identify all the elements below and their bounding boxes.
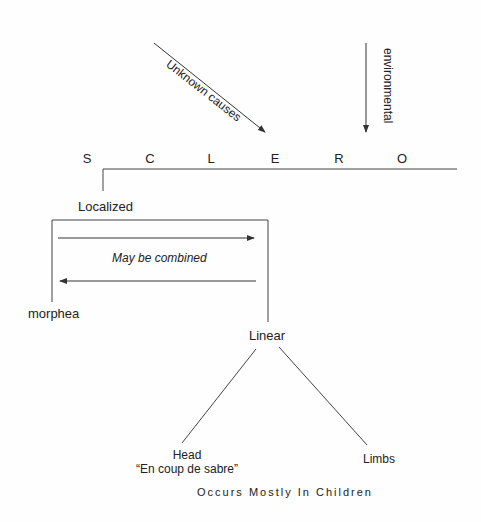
letter-o: O bbox=[397, 151, 407, 166]
footer-note: Occurs Mostly In Children bbox=[197, 486, 373, 498]
diagram-lines bbox=[0, 0, 481, 522]
localized-label: Localized bbox=[78, 199, 133, 214]
morphea-label: morphea bbox=[28, 306, 79, 321]
environmental-label: environmental bbox=[381, 48, 395, 123]
letter-l: L bbox=[207, 151, 214, 166]
letter-e: E bbox=[271, 151, 280, 166]
letter-r: R bbox=[334, 151, 343, 166]
head-line2: “En coup de sabre” bbox=[136, 462, 238, 476]
linear-label: Linear bbox=[249, 328, 285, 343]
branch-head bbox=[182, 349, 256, 443]
letter-c: C bbox=[145, 151, 154, 166]
combined-note: May be combined bbox=[112, 251, 207, 265]
sclero-bracket bbox=[103, 169, 457, 191]
head-label: Head “En coup de sabre” bbox=[136, 448, 238, 476]
letter-s: S bbox=[83, 151, 92, 166]
localized-bracket bbox=[52, 220, 268, 322]
limbs-label: Limbs bbox=[363, 452, 395, 466]
head-line1: Head bbox=[136, 448, 238, 462]
branch-limbs bbox=[279, 347, 367, 445]
